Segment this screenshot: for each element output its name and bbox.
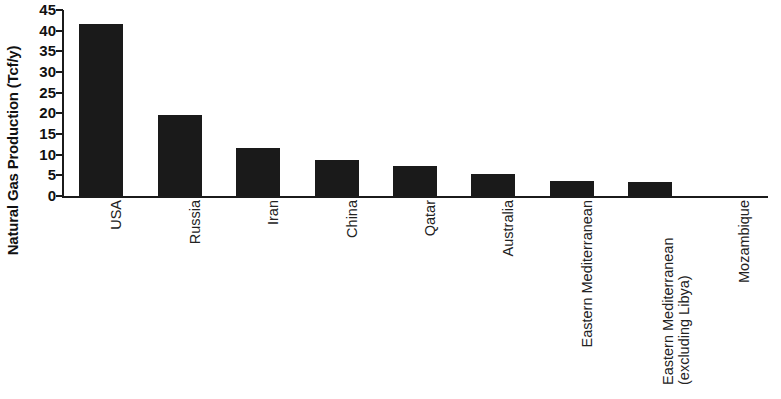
- y-axis-tick: [56, 50, 63, 52]
- x-category-label: Mozambique: [736, 200, 752, 283]
- y-tick-label: 0: [48, 188, 56, 203]
- bar: [628, 182, 672, 196]
- y-tick-label: 20: [39, 105, 56, 120]
- bar: [393, 166, 437, 196]
- bar: [471, 174, 515, 196]
- x-category-label: Eastern Mediterranean: [579, 200, 595, 348]
- y-tick-label: 35: [39, 43, 56, 58]
- y-axis-tick: [56, 195, 63, 197]
- bar: [315, 160, 359, 196]
- y-axis-title-text: Natural Gas Production (Tcf/y): [5, 45, 22, 255]
- bars-layer: [62, 10, 768, 196]
- bar: [79, 24, 123, 196]
- y-axis-tick: [56, 71, 63, 73]
- x-category-label-line: Eastern Mediterranean: [660, 200, 676, 385]
- x-category-label: Russia: [187, 200, 203, 244]
- x-category-label: China: [344, 200, 360, 238]
- y-axis-tick: [56, 133, 63, 135]
- bar: [236, 148, 280, 196]
- x-category-label: Eastern Mediterranean(excluding Libya): [660, 200, 692, 385]
- y-tick-label: 5: [48, 167, 56, 182]
- bar: [158, 115, 202, 196]
- y-axis-tick: [56, 30, 63, 32]
- y-axis-title: Natural Gas Production (Tcf/y): [0, 0, 26, 300]
- y-axis-tick: [56, 174, 63, 176]
- x-category-label: Qatar: [422, 200, 438, 236]
- plot-area: [62, 10, 768, 196]
- y-axis-tick: [56, 154, 63, 156]
- y-tick-label: 45: [39, 2, 56, 17]
- y-tick-label: 10: [39, 147, 56, 162]
- bar-chart: Natural Gas Production (Tcf/y) 454035302…: [0, 0, 781, 399]
- bar: [550, 181, 594, 196]
- y-axis-tick: [56, 9, 63, 11]
- x-category-label: Australia: [500, 200, 516, 256]
- x-category-label: Iran: [265, 200, 281, 225]
- y-axis-tick: [56, 92, 63, 94]
- x-category-label: USA: [108, 200, 124, 230]
- x-axis-category-labels: USARussiaIranChinaQatarAustraliaEastern …: [62, 200, 768, 399]
- y-tick-label: 40: [39, 23, 56, 38]
- y-axis-tick-labels: 454035302520151050: [26, 10, 56, 196]
- y-axis-tick: [56, 112, 63, 114]
- y-tick-label: 25: [39, 85, 56, 100]
- x-axis-line: [62, 196, 768, 198]
- x-category-label-line: (excluding Libya): [677, 200, 693, 385]
- y-tick-label: 30: [39, 64, 56, 79]
- y-tick-label: 15: [39, 126, 56, 141]
